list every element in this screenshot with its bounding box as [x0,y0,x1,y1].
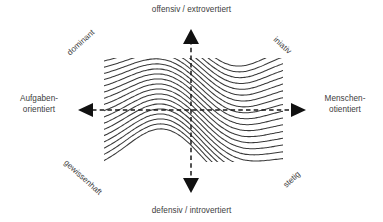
axis-label-bottom: defensiv / introvertiert [0,205,383,216]
axis-label-left: Aufgaben- orientiert [6,93,72,115]
arrow-left-icon [78,103,93,117]
arrow-up-icon [183,29,199,44]
arrow-down-icon [183,178,199,193]
arrow-right-icon [291,103,306,117]
axis-label-right: Menschen- otientiert [312,93,378,115]
diagram-canvas: offensiv / extrovertiert defensiv / intr… [0,0,383,222]
axis-label-top: offensiv / extrovertiert [0,4,383,15]
